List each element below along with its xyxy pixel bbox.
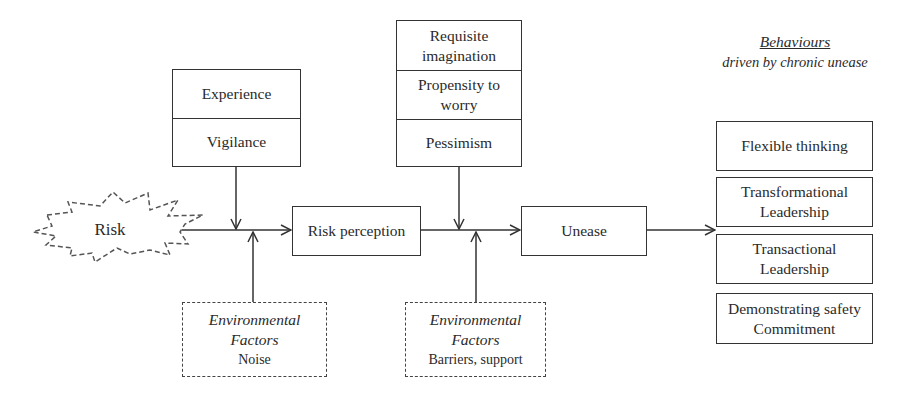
antecedents-box-1: Experience Vigilance bbox=[172, 69, 301, 167]
behaviour-line1: Demonstrating safety bbox=[728, 299, 861, 319]
behaviours-heading: Behaviours bbox=[705, 32, 885, 52]
experience-cell: Experience bbox=[173, 70, 300, 118]
env1-detail: Noise bbox=[238, 350, 271, 369]
behaviour-line2: Leadership bbox=[760, 202, 829, 222]
unease-box: Unease bbox=[521, 206, 647, 256]
environmental-factors-box-2: Environmental Factors Barriers, support bbox=[405, 302, 546, 377]
behaviour-transactional-leadership: Transactional Leadership bbox=[716, 234, 873, 284]
risk-perception-box: Risk perception bbox=[292, 206, 421, 256]
env2-title-line2: Factors bbox=[451, 330, 499, 350]
env2-detail: Barriers, support bbox=[428, 350, 522, 369]
pessimism-cell: Pessimism bbox=[397, 119, 521, 165]
behaviour-line1: Flexible thinking bbox=[741, 136, 847, 156]
env2-title-line1: Environmental bbox=[430, 310, 522, 330]
behaviour-demonstrating-safety-commitment: Demonstrating safety Commitment bbox=[716, 293, 873, 344]
behaviour-transformational-leadership: Transformational Leadership bbox=[716, 177, 873, 227]
risk-label: Risk bbox=[85, 220, 135, 240]
vigilance-cell: Vigilance bbox=[173, 118, 300, 165]
behaviour-line2: Leadership bbox=[760, 259, 829, 279]
behaviour-line2: Commitment bbox=[754, 319, 836, 339]
requisite-imagination-cell: Requisite imagination bbox=[397, 21, 521, 70]
env1-title-line2: Factors bbox=[230, 330, 278, 350]
behaviour-line1: Transformational bbox=[741, 182, 848, 202]
behaviours-heading-block: Behaviours driven by chronic unease bbox=[705, 32, 885, 72]
antecedents-box-2: Requisite imagination Propensity to worr… bbox=[396, 20, 522, 167]
env1-title-line1: Environmental bbox=[209, 310, 301, 330]
behaviour-line1: Transactional bbox=[753, 239, 837, 259]
environmental-factors-box-1: Environmental Factors Noise bbox=[182, 302, 327, 377]
behaviour-flexible-thinking: Flexible thinking bbox=[716, 121, 873, 171]
propensity-to-worry-cell: Propensity to worry bbox=[397, 70, 521, 119]
behaviours-subheading: driven by chronic unease bbox=[705, 52, 885, 72]
